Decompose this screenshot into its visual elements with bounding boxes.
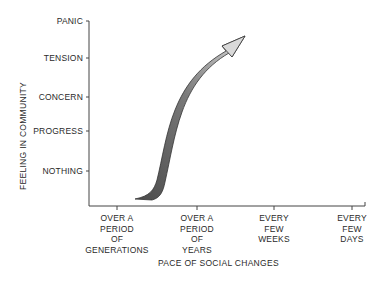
x-cat-line: OVER A [77, 213, 157, 224]
x-cat-line: PERIOD [77, 224, 157, 235]
x-cat-line: FEW [312, 224, 383, 235]
x-cat-line: WEEKS [234, 234, 314, 245]
x-category-weeks: EVERY FEW WEEKS [234, 213, 314, 245]
x-cat-line: PERIOD [157, 224, 237, 235]
x-cat-line: OVER A [157, 213, 237, 224]
x-category-generations: OVER A PERIOD OF GENERATIONS [77, 213, 157, 255]
social-change-diagram: PANIC TENSION CONCERN PROGRESS NOTHING F… [0, 0, 383, 282]
y-axis-title: FEELING IN COMMUNITY [18, 82, 28, 190]
y-level-panic: PANIC [3, 16, 83, 26]
x-cat-line: FEW [234, 224, 314, 235]
x-category-years: OVER A PERIOD OF YEARS [157, 213, 237, 255]
x-category-days: EVERY FEW DAYS [312, 213, 383, 245]
x-axis-title: PACE OF SOCIAL CHANGES [158, 258, 279, 268]
y-level-concern: CONCERN [3, 92, 83, 102]
x-cat-line: EVERY [312, 213, 383, 224]
rising-arrow [135, 36, 245, 200]
x-cat-line: OF [77, 234, 157, 245]
x-cat-line: DAYS [312, 234, 383, 245]
x-cat-line: GENERATIONS [77, 245, 157, 256]
y-level-progress: PROGRESS [3, 126, 83, 136]
y-level-tension: TENSION [3, 53, 83, 63]
x-cat-line: YEARS [157, 245, 237, 256]
y-level-nothing: NOTHING [3, 166, 83, 176]
x-cat-line: OF [157, 234, 237, 245]
x-cat-line: EVERY [234, 213, 314, 224]
